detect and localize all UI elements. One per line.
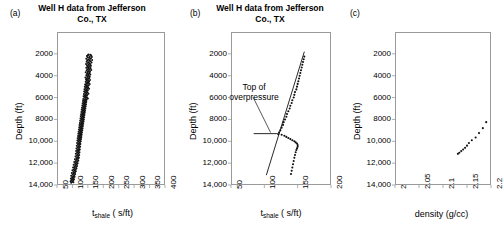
data-point: [91, 59, 93, 61]
panel-a: (a) Well H data from Jefferson Co., TX D…: [0, 0, 170, 228]
data-point: [301, 66, 303, 68]
data-point: [296, 86, 298, 88]
panel-c-xtick-label: 2.15: [471, 173, 480, 189]
data-point: [293, 160, 295, 162]
data-point: [303, 58, 305, 60]
panel-b: (b) Well H data from Jefferson Co., TX D…: [168, 0, 340, 228]
panel-c-ytick-label: 12,000: [353, 158, 391, 167]
data-point: [285, 116, 287, 118]
panel-b-ytick-label: 8000: [189, 114, 227, 123]
data-point: [282, 124, 284, 126]
data-point: [295, 151, 297, 153]
panel-a-xtick-label: 350: [153, 176, 162, 189]
data-point: [291, 170, 293, 172]
panel-b-xtick-label: 150: [301, 176, 310, 189]
panel-a-ytick-label: 2000: [15, 49, 53, 58]
panel-c-ytick-label: 4000: [353, 71, 391, 80]
data-point: [70, 182, 72, 184]
data-point: [291, 102, 293, 104]
normal-compaction-trend-line: [266, 52, 304, 175]
data-point: [300, 69, 302, 71]
panel-c-ytick-label: 8000: [353, 114, 391, 123]
panel-a-xtick-label: 100: [76, 176, 85, 189]
panel-b-ytick-label: 2000: [189, 49, 227, 58]
data-point: [89, 58, 91, 60]
panel-a-ytick-label: 14,000: [15, 180, 53, 189]
data-point: [462, 148, 464, 150]
data-point: [301, 64, 303, 66]
panel-b-xtick-label: 50: [235, 180, 244, 189]
panel-c-ytick-label: 6000: [353, 93, 391, 102]
data-point: [292, 163, 294, 165]
panel-b-ytick-label: 12,000: [189, 158, 227, 167]
data-point: [478, 132, 480, 134]
panel-b-ytick-label: 14,000: [189, 180, 227, 189]
data-point: [289, 107, 291, 109]
panel-c-ytick-label: 2000: [353, 49, 391, 58]
data-point: [294, 154, 296, 156]
data-point: [294, 91, 296, 93]
data-point: [299, 72, 301, 74]
data-point: [286, 113, 288, 115]
panel-c: (c) Depth (ft) density (g/cc) 2000400060…: [338, 0, 498, 228]
data-point: [89, 73, 91, 75]
data-point: [297, 83, 299, 85]
panel-c-xtick-label: 2.1: [447, 178, 456, 189]
panel-a-ytick-label: 8000: [15, 114, 53, 123]
data-point: [285, 136, 287, 138]
data-point: [283, 135, 285, 137]
data-point: [91, 62, 93, 64]
data-point: [287, 110, 289, 112]
data-point: [297, 80, 299, 82]
panel-c-ytick-label: 10,000: [353, 136, 391, 145]
data-point: [291, 139, 293, 141]
data-point: [291, 99, 293, 101]
panel-c-xtick-label: 2: [399, 185, 408, 189]
data-point: [460, 150, 462, 152]
data-point: [279, 129, 281, 131]
panel-a-ytick-label: 10,000: [15, 136, 53, 145]
data-point: [482, 127, 484, 129]
data-point: [85, 58, 87, 60]
panel-b-ytick-label: 10,000: [189, 136, 227, 145]
overpressure-leader-line: [253, 97, 271, 133]
data-point: [289, 138, 291, 140]
data-point: [277, 133, 279, 135]
panel-c-xtick-label: 2.05: [423, 173, 432, 189]
data-point: [293, 94, 295, 96]
panel-a-xtick-label: 200: [107, 176, 116, 189]
data-point: [299, 75, 301, 77]
data-point: [291, 166, 293, 168]
panel-c-data-points: [457, 121, 487, 155]
panel-b-ytick-label: 6000: [189, 93, 227, 102]
panel-a-xtick-label: 250: [122, 176, 131, 189]
panel-a-xtick-label: 150: [91, 176, 100, 189]
data-point: [303, 56, 305, 58]
data-point: [72, 181, 74, 183]
data-point: [87, 62, 89, 64]
panel-c-ytick-label: 14,000: [353, 180, 391, 189]
data-point: [466, 145, 468, 147]
data-point: [302, 61, 304, 63]
data-point: [284, 118, 286, 120]
panel-a-ytick-label: 12,000: [15, 158, 53, 167]
data-point: [298, 77, 300, 79]
data-point: [287, 137, 289, 139]
panel-a-ytick-label: 4000: [15, 71, 53, 80]
data-point: [293, 157, 295, 159]
data-point: [457, 153, 459, 155]
panel-a-ytick-label: 6000: [15, 93, 53, 102]
panel-a-xtick-label: 300: [138, 176, 147, 189]
data-point: [85, 71, 87, 73]
data-point: [295, 149, 297, 151]
data-point: [475, 136, 477, 138]
data-point: [471, 139, 473, 141]
panel-a-xtick-label: 50: [61, 180, 70, 189]
data-point: [293, 97, 295, 99]
data-point: [468, 142, 470, 144]
data-point: [464, 147, 466, 149]
panel-b-data-points: [277, 56, 305, 176]
data-point: [485, 121, 487, 123]
data-point: [290, 173, 292, 175]
